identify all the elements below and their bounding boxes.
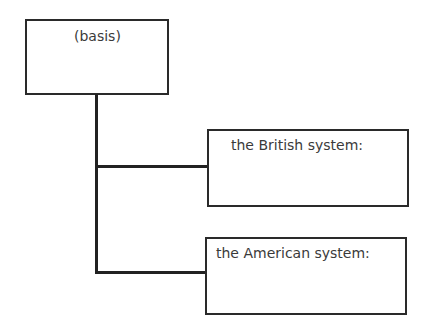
american-branch-connector	[95, 271, 206, 274]
american-system-label: the American system:	[216, 245, 370, 261]
basis-box: (basis)	[25, 19, 169, 95]
basis-label: (basis)	[74, 28, 121, 44]
british-system-label: the British system:	[231, 137, 363, 153]
british-system-box: the British system:	[207, 129, 409, 207]
american-system-box: the American system:	[205, 237, 407, 315]
trunk-connector	[95, 94, 98, 274]
british-branch-connector	[95, 165, 208, 168]
